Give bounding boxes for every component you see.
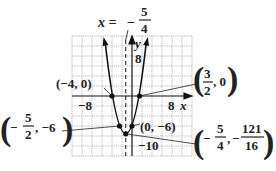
svg-text:5: 5 bbox=[217, 121, 224, 136]
point-y-intercept bbox=[129, 123, 134, 128]
graph: −8 8 x y 8 −10 x = − 5 4 (−4, 0) (0, −6)… bbox=[0, 0, 276, 171]
svg-text:4: 4 bbox=[217, 138, 224, 153]
curve-arrow-right-icon bbox=[143, 37, 149, 46]
svg-text:−: − bbox=[10, 120, 17, 135]
svg-text:3: 3 bbox=[204, 66, 211, 81]
symmetry-label-num: 5 bbox=[141, 4, 148, 19]
point-x-intercept-right bbox=[137, 93, 142, 98]
label-point-left: (−4, 0) bbox=[56, 76, 92, 91]
symmetry-label-den: 4 bbox=[141, 21, 148, 36]
symmetry-label-minus: − bbox=[127, 15, 135, 30]
label-point-vertex: ( − 5 4 , − 121 16 ) bbox=[193, 121, 274, 161]
label-point-right: ( 3 2 , 0 ) bbox=[193, 60, 238, 98]
svg-text:2: 2 bbox=[25, 127, 32, 142]
label-point-yint: (0, −6) bbox=[140, 119, 176, 134]
svg-text:16: 16 bbox=[245, 138, 259, 153]
svg-text:): ) bbox=[227, 60, 238, 98]
tick-y-8: 8 bbox=[135, 51, 142, 66]
tick-x-8: 8 bbox=[168, 98, 175, 113]
tick-x-neg8: −8 bbox=[78, 98, 92, 113]
y-axis-label: y bbox=[133, 36, 141, 51]
point-vertex bbox=[123, 131, 128, 136]
x-axis-label: x bbox=[179, 98, 187, 113]
symmetry-label-lhs: x = bbox=[97, 15, 117, 30]
svg-text:121: 121 bbox=[242, 121, 262, 136]
point-x-intercept-left bbox=[109, 93, 114, 98]
svg-text:, 0: , 0 bbox=[213, 74, 226, 89]
tick-y-neg10: −10 bbox=[138, 138, 158, 153]
axes bbox=[72, 36, 192, 156]
svg-text:2: 2 bbox=[204, 83, 211, 98]
svg-text:,: , bbox=[227, 131, 230, 146]
symmetry-pointer bbox=[126, 30, 128, 40]
label-point-symmetric: ( − 5 2 , −6 ) bbox=[0, 110, 73, 148]
svg-text:): ) bbox=[62, 110, 73, 148]
svg-text:): ) bbox=[263, 123, 274, 161]
svg-text:5: 5 bbox=[25, 110, 32, 125]
svg-text:(: ( bbox=[193, 60, 204, 98]
point-symmetric bbox=[117, 123, 122, 128]
curve-arrow-left-icon bbox=[103, 37, 109, 46]
svg-text:, −6: , −6 bbox=[35, 120, 56, 135]
svg-text:−: − bbox=[232, 131, 239, 146]
svg-text:−: − bbox=[203, 131, 210, 146]
